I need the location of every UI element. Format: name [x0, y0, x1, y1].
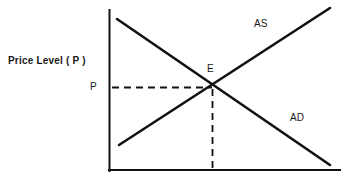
price-level-tick-label: P — [90, 82, 97, 92]
ad-curve-label: AD — [290, 113, 304, 123]
as-curve — [119, 8, 330, 145]
equilibrium-point-label: E — [207, 64, 214, 74]
as-curve-label: AS — [254, 19, 267, 29]
diagram-canvas — [0, 0, 345, 192]
ad-curve — [117, 19, 330, 165]
ad-as-equilibrium-diagram: Price Level ( P ) P E AS AD — [0, 0, 345, 192]
y-axis-title: Price Level ( P ) — [8, 56, 86, 66]
